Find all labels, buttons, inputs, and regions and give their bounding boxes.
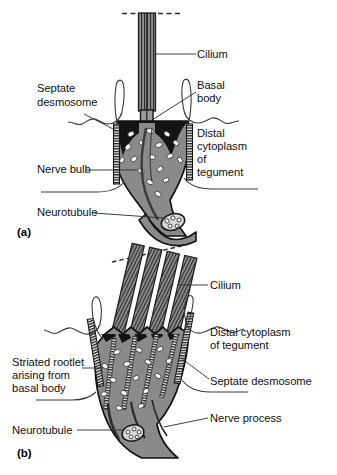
- label-neurotubule-a: Neurotubule: [37, 206, 97, 219]
- label-distal-cytoplasm-a-line2: cytoplasm: [197, 140, 247, 153]
- leader-septate-b: [181, 358, 209, 379]
- label-cilium-a: Cilium: [197, 48, 228, 61]
- label-nerve-process-b: Nerve process: [210, 412, 281, 425]
- label-basal-body-a-line1: Basal: [197, 79, 225, 92]
- label-distal-cytoplasm-a-line3: of: [197, 153, 206, 166]
- label-distal-cytoplasm-b-line2: of tegument: [210, 339, 269, 352]
- label-basal-body-a-line2: body: [197, 92, 221, 105]
- label-striated-rootlet-b-line2: arising from: [12, 369, 70, 382]
- label-cilium-b: Cilium: [210, 279, 241, 292]
- label-distal-cytoplasm-a-line4: tegument: [197, 166, 243, 179]
- label-striated-rootlet-b-line1: Striated rootlet: [12, 356, 84, 369]
- leader-septate-a: [84, 114, 117, 131]
- figure-root: Cilium Basal body Distal cytoplasm of te…: [0, 0, 337, 475]
- cilium-shaft-a: [139, 13, 156, 111]
- label-nerve-bulb-a: Nerve bulb: [37, 163, 91, 176]
- leader-nerve-process-b: [164, 418, 208, 427]
- label-septate-desmosome-b: Septate desmosome: [210, 375, 312, 388]
- label-distal-cytoplasm-b-line1: Distal cytoplasm: [210, 326, 291, 339]
- label-neurotubule-b: Neurotubule: [12, 424, 72, 437]
- label-septate-desmosome-a-line1: Septate: [37, 82, 75, 95]
- panel-tag-b: (b): [17, 447, 32, 459]
- label-septate-desmosome-a-line2: desmosome: [37, 96, 98, 109]
- diagram-canvas: [0, 0, 337, 475]
- label-distal-cytoplasm-a-line1: Distal: [197, 127, 225, 140]
- panel-tag-a: (a): [17, 226, 31, 238]
- label-striated-rootlet-b-line3: basal body: [12, 382, 66, 395]
